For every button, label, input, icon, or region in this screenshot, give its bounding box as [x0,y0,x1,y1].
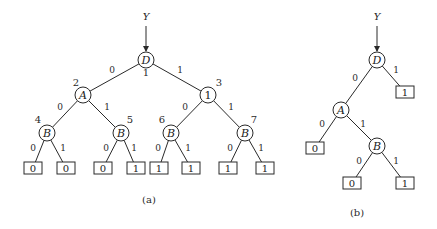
node-index-label: 1 [143,67,149,78]
edge-branch-label: 1 [393,65,399,75]
leaf-value: 1 [262,163,268,174]
edge-branch-label: 0 [356,156,362,166]
decision-node-D: D [138,52,154,68]
edge-branch-label: 1 [185,143,191,153]
leaf-value: 1 [188,163,194,174]
terminal-leaf: 0 [24,162,42,174]
figure-caption-b: (b) [350,207,364,218]
terminal-leaf: 1 [396,86,414,98]
edge-branch-label: 1 [104,102,110,112]
terminal-leaf: 1 [256,162,274,174]
decision-node-A: A [333,102,349,118]
edge-branch-label: 0 [352,73,358,83]
edge-D-A [346,66,373,103]
leaf-value: 0 [349,178,355,189]
node-index-label: 6 [159,114,165,125]
edge-branch-label: 1 [177,65,183,75]
leaf-value: 0 [30,163,36,174]
leaf-value: 1 [402,178,408,189]
diagram-canvas: DA1BBBB00011111DAB1001 Y0101010101010112… [0,0,437,229]
terminal-leaf: 1 [182,162,200,174]
leaf-value: 0 [63,163,69,174]
edge-branch-label: 1 [131,143,137,153]
node-variable-label: B [42,127,51,140]
edge-branch-label: 1 [60,143,66,153]
edge-branch-label: 0 [155,143,161,153]
figure-caption-a: (a) [142,194,156,205]
node-variable-label: 1 [205,89,212,102]
decision-node-D: D [369,52,385,68]
terminal-leaf: 0 [343,177,361,189]
node-variable-label: B [240,127,249,140]
input-variable-label: Y [374,11,382,22]
edge-branch-label: 1 [393,156,399,166]
edge-branch-label: 0 [103,143,109,153]
edge-A2-B5 [89,101,116,128]
node-variable-label: A [78,89,87,102]
edge-branch-label: 0 [57,102,63,112]
node-variable-label: B [166,127,175,140]
edge-branch-label: 0 [227,143,233,153]
leaf-value: 1 [402,87,408,98]
edge-branch-label: 0 [182,102,188,112]
leaf-value: 0 [312,143,318,154]
terminal-leaf: 0 [57,162,75,174]
edge-N3-B6 [177,101,203,128]
leaf-value: 1 [156,163,162,174]
decision-node-B: B [163,125,179,141]
terminal-leaf: 0 [94,162,112,174]
terminal-leaf: 1 [219,162,237,174]
decision-node-B: B [113,125,129,141]
decision-node-B: B [237,125,253,141]
node-index-label: 5 [127,114,133,125]
terminal-leaf: 1 [150,162,168,174]
edges-layer [35,26,400,177]
node-variable-label: D [372,54,382,67]
node-variable-label: B [372,140,381,153]
edge-A-B [347,116,372,141]
edge-branch-label: 1 [360,119,366,129]
terminal-leaf: 1 [396,177,414,189]
decision-node-1: 1 [200,87,216,103]
input-variable-label: Y [143,11,151,22]
node-index-label: 3 [216,77,222,88]
decision-node-A: A [75,87,91,103]
edge-branch-label: 1 [258,143,264,153]
edge-branch-label: 0 [319,119,325,129]
node-index-label: 4 [35,114,41,125]
binary-decision-diagram-figure: DA1BBBB00011111DAB1001 Y0101010101010112… [0,0,437,229]
edge-branch-label: 1 [228,102,234,112]
node-variable-label: D [141,54,151,67]
terminal-leaf: 1 [127,162,145,174]
edge-branch-label: 0 [30,143,36,153]
edge-B4-L1 [35,140,44,162]
node-variable-label: A [336,104,345,117]
decision-node-B: B [39,125,55,141]
node-index-label: 7 [251,114,257,125]
node-index-label: 2 [73,77,79,88]
edge-N3-B7 [214,101,240,128]
leaf-value: 1 [225,163,231,174]
edge-B6-L5 [161,141,168,162]
leaf-value: 0 [100,163,106,174]
decision-node-B: B [369,138,385,154]
node-variable-label: B [116,127,125,140]
edge-branch-label: 0 [109,65,115,75]
leaf-value: 1 [133,163,139,174]
terminal-leaf: 0 [306,142,324,154]
